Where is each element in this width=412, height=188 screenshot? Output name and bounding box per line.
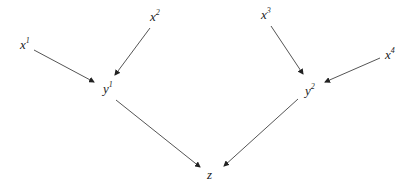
edge-layer — [0, 0, 412, 188]
node-label-base: z — [207, 167, 212, 182]
node-label-superscript: 4 — [391, 46, 395, 55]
edge-arrow-x4-to-y2 — [325, 58, 380, 82]
node-label-base: y — [103, 81, 109, 96]
node-z: z — [207, 168, 212, 181]
node-label-base: x — [261, 7, 267, 22]
node-y2: y2 — [305, 84, 315, 97]
edge-arrow-x3-to-y2 — [271, 26, 303, 74]
node-x1: x1 — [20, 38, 30, 51]
node-label-superscript: 2 — [156, 8, 160, 17]
node-label-base: x — [150, 9, 156, 24]
node-x4: x4 — [385, 48, 395, 61]
edge-arrow-y2-to-z — [224, 99, 298, 166]
node-x2: x2 — [150, 10, 160, 23]
node-label-superscript: 2 — [311, 82, 315, 91]
node-x3: x3 — [261, 8, 271, 21]
node-label-superscript: 3 — [267, 6, 271, 15]
node-label-base: x — [385, 47, 391, 62]
diagram-canvas: x1 x2 y1 x3 x4 y2 z — [0, 0, 412, 188]
node-label-base: x — [20, 37, 26, 52]
edge-arrow-x1-to-y1 — [34, 50, 94, 82]
edge-arrow-y1-to-z — [116, 100, 200, 167]
node-label-superscript: 1 — [109, 80, 113, 89]
node-label-superscript: 1 — [26, 36, 30, 45]
node-label-base: y — [305, 83, 311, 98]
node-y1: y1 — [103, 82, 113, 95]
edge-arrow-x2-to-y1 — [115, 28, 150, 75]
